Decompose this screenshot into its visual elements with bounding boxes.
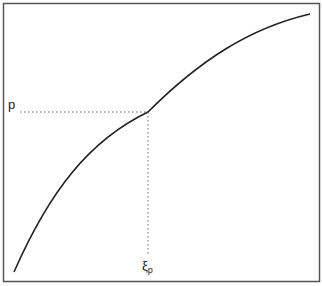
plot-frame (4, 4, 320, 282)
diagram: p ξp (0, 0, 322, 286)
p-label: p (8, 97, 15, 112)
